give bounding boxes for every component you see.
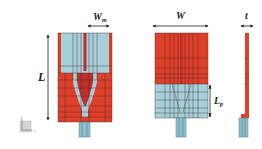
side-view (239, 33, 249, 137)
thickness-label: t (245, 10, 249, 21)
back-feed-line (176, 118, 186, 137)
length-dimension: L (37, 35, 48, 120)
svg-text:Lp: Lp (213, 95, 223, 107)
length-label: L (37, 70, 45, 84)
side-feed-line (239, 118, 248, 137)
front-view (58, 33, 112, 137)
axis-y-label: y (21, 116, 23, 120)
thickness-dimension: t (241, 10, 253, 26)
axis-icon: x y (20, 116, 36, 133)
front-feed-line (79, 122, 90, 137)
back-view (155, 33, 208, 137)
width-m-dimension: Wm (88, 11, 109, 26)
length-p-dimension: Lp (209, 85, 223, 117)
antenna-diagram: L Wm x y (0, 0, 262, 149)
length-p-subscript: p (219, 101, 223, 107)
width-dimension: W (153, 10, 208, 26)
length-p-label: L (213, 95, 220, 106)
axis-x-label: x (34, 129, 36, 133)
width-m-subscript: m (102, 17, 107, 23)
width-label: W (176, 10, 186, 21)
svg-text:Wm: Wm (93, 11, 107, 23)
